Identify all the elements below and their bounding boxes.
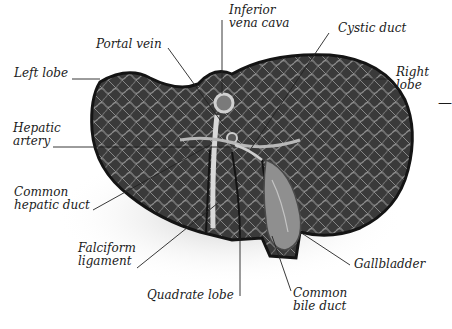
label-right-lobe: Right lobe	[396, 66, 429, 92]
label-falciform-ligament: Falciform ligament	[78, 242, 136, 268]
label-gallbladder: Gallbladder	[354, 258, 425, 271]
label-cystic-duct: Cystic duct	[338, 22, 406, 35]
label-hepatic-artery: Hepatic artery	[13, 122, 61, 148]
label-left-lobe: Left lobe	[14, 67, 68, 80]
inferior-vena-cava-shape	[215, 94, 233, 112]
label-common-bile-duct: Common bile duct	[293, 287, 347, 313]
label-inferior-vena-cava: Inferior vena cava	[229, 4, 289, 30]
label-cropped-right-edge: —	[438, 96, 452, 109]
label-quadrate-lobe: Quadrate lobe	[147, 289, 234, 302]
label-common-hepatic-duct: Common hepatic duct	[14, 186, 90, 212]
label-portal-vein: Portal vein	[96, 38, 162, 51]
